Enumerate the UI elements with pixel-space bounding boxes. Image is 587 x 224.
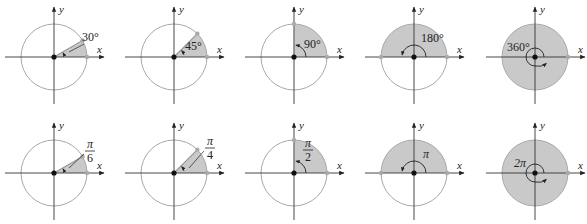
initial-point [445, 55, 449, 59]
x-axis-label: x [336, 43, 342, 55]
origin-point [411, 170, 416, 175]
origin-point [171, 170, 176, 175]
terminal-point [195, 31, 199, 35]
y-axis-label: y [418, 119, 424, 131]
y-axis-label: y [418, 3, 424, 15]
origin-point [291, 170, 296, 175]
origin-point [291, 54, 296, 59]
angle-panel-radians-3: xyπ2 [245, 119, 344, 220]
angle-label: 90° [304, 37, 321, 51]
x-axis-label: x [216, 43, 222, 55]
origin-point [411, 54, 416, 59]
y-axis-label: y [178, 119, 184, 131]
initial-point [205, 171, 209, 175]
angle-panel-radians-2: xyπ4 [125, 119, 224, 220]
angle-label-numerator: π [305, 136, 312, 150]
initial-point [205, 55, 209, 59]
y-axis-label: y [178, 3, 184, 15]
x-axis-label: x [577, 159, 583, 171]
x-axis-label: x [216, 159, 222, 171]
initial-point [325, 55, 329, 59]
origin-point [51, 54, 56, 59]
origin-point [532, 54, 537, 59]
angle-label: 45° [185, 39, 202, 53]
origin-point [171, 54, 176, 59]
terminal-point [195, 147, 199, 151]
angle-label: 2π [514, 156, 527, 170]
terminal-point [379, 171, 383, 175]
terminal-point [292, 138, 296, 142]
terminal-point [379, 55, 383, 59]
angle-label-denominator: 4 [207, 148, 213, 162]
y-axis-label: y [539, 119, 545, 131]
angle-panel-radians-1: xyπ6 [5, 119, 104, 220]
initial-point [325, 171, 329, 175]
x-axis-label: x [456, 43, 462, 55]
initial-point [445, 171, 449, 175]
terminal-point [292, 22, 296, 26]
x-axis-label: x [577, 43, 583, 55]
angle-label-denominator: 6 [87, 151, 93, 165]
initial-point [85, 55, 89, 59]
initial-point [566, 55, 570, 59]
x-axis-label: x [336, 159, 342, 171]
angle-panel-radians-5: xy2π [486, 119, 585, 220]
origin-point [532, 170, 537, 175]
initial-point [85, 171, 89, 175]
angle-label-numerator: π [87, 137, 94, 151]
x-axis-label: x [96, 43, 102, 55]
angle-panel-degrees-2: xy45° [125, 3, 224, 104]
x-axis-label: x [456, 159, 462, 171]
x-axis-label: x [96, 159, 102, 171]
y-axis-label: y [58, 3, 64, 15]
angle-panel-degrees-4: xy180° [365, 3, 464, 104]
initial-point [566, 171, 570, 175]
y-axis-label: y [539, 3, 545, 15]
angle-label: 30° [82, 30, 99, 44]
angle-label: π [423, 147, 430, 161]
angle-label-numerator: π [207, 134, 214, 148]
angle-label: 360° [507, 40, 530, 54]
origin-point [51, 170, 56, 175]
angle-panel-radians-4: xyπ [365, 119, 464, 220]
angle-panel-degrees-5: xy360° [486, 3, 585, 104]
angle-label: 180° [421, 31, 444, 45]
angle-panel-degrees-1: xy30° [5, 3, 104, 104]
y-axis-label: y [298, 3, 304, 15]
angle-label-denominator: 2 [305, 150, 311, 164]
angle-panel-degrees-3: xy90° [245, 3, 344, 104]
y-axis-label: y [58, 119, 64, 131]
y-axis-label: y [298, 119, 304, 131]
angle-diagram: xy30°xy45°xy90°xy180°xy360°xyπ6xyπ4xyπ2x… [0, 0, 587, 224]
